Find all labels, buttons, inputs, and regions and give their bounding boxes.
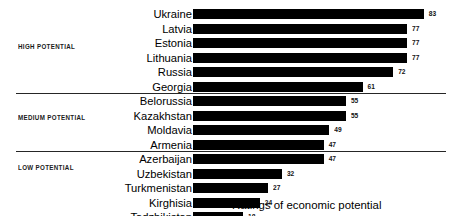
bar (193, 96, 346, 106)
bar (193, 9, 424, 19)
chart-row: Kirghisia24 (0, 197, 452, 212)
bar-value-label: 77 (412, 38, 419, 48)
category-label: Kazakhstan (134, 110, 192, 122)
category-label: Turkmenistan (125, 182, 192, 194)
category-label: Moldavia (147, 124, 192, 136)
bar (193, 67, 393, 77)
group-label-medium: MEDIUM POTENTIAL (18, 114, 85, 122)
category-label: Uzbekistan (137, 168, 192, 180)
chart-row: Latvia77 (0, 23, 452, 38)
bar-value-label: 77 (412, 23, 419, 33)
bar-value-label: 77 (412, 52, 419, 62)
bar (193, 212, 243, 216)
chart-row: Ukraine83 (0, 8, 452, 23)
bar-value-label: 32 (287, 168, 294, 178)
bar (193, 38, 407, 48)
chart-caption: Ratings of economic potential (232, 199, 381, 211)
bar (193, 169, 282, 179)
bar (193, 24, 407, 34)
bar (193, 140, 324, 150)
bar-value-label: 83 (429, 9, 436, 19)
group-divider (16, 151, 446, 152)
category-label: Armenia (150, 139, 192, 151)
bar (193, 53, 407, 63)
bar-value-label: 61 (368, 81, 375, 91)
category-label: Kirghisia (149, 197, 192, 209)
category-label: Estonia (155, 37, 192, 49)
category-label: Azerbaijan (139, 153, 192, 165)
bar (193, 82, 363, 92)
bar (193, 154, 324, 164)
bar-value-label: 55 (351, 96, 358, 106)
bar-value-label: 55 (351, 110, 358, 120)
bar-value-label: 47 (329, 139, 336, 149)
chart-row: Turkmenistan27 (0, 182, 452, 197)
bar-value-label: 18 (248, 212, 255, 216)
bar (193, 183, 268, 193)
category-label: Georgia (152, 81, 192, 93)
group-label-low: LOW POTENTIAL (18, 164, 74, 172)
chart-row: Moldavia49 (0, 124, 452, 139)
category-label: Ukraine (153, 8, 192, 20)
group-divider (16, 93, 446, 94)
bar (193, 125, 329, 135)
bar-chart: Ukraine83Latvia77Estonia77Lithuania77Rus… (0, 0, 452, 216)
category-label: Latvia (162, 23, 192, 35)
bar-value-label: 47 (329, 154, 336, 164)
group-label-high: HIGH POTENTIAL (18, 43, 75, 51)
bar-value-label: 72 (398, 67, 405, 77)
category-label: Russia (158, 66, 192, 78)
category-label: Tadzhikistan (130, 211, 192, 216)
chart-row: Tadzhikistan18 (0, 211, 452, 216)
bar-value-label: 49 (334, 125, 341, 135)
chart-row: Belorussia55 (0, 95, 452, 110)
category-label: Lithuania (147, 52, 192, 64)
category-label: Belorussia (140, 95, 192, 107)
chart-row: Russia72 (0, 66, 452, 81)
bar (193, 111, 346, 121)
bar-value-label: 27 (273, 183, 280, 193)
chart-row: Lithuania77 (0, 52, 452, 67)
